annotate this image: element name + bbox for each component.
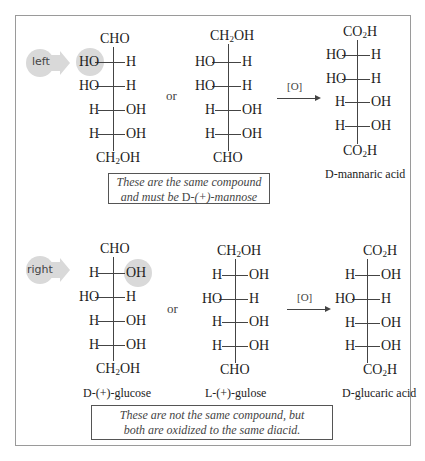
row-3-left: H: [335, 94, 345, 110]
bond: [98, 345, 125, 346]
bond: [212, 62, 241, 63]
row-2-left: HO: [195, 78, 215, 94]
bond: [355, 346, 380, 347]
same-compound-note: These are the same compound and must be …: [108, 173, 270, 204]
row-2-right: H: [126, 78, 136, 94]
row-3-left: H: [89, 102, 99, 118]
row-1-left: HO: [326, 47, 346, 63]
left-pointer-label: left: [32, 55, 50, 68]
note-line-2: both are oxidized to the same diacid.: [96, 423, 328, 438]
row-4-right: OH: [242, 126, 262, 142]
arrow-shaft: [287, 309, 327, 310]
row-2-left: HO: [79, 78, 99, 94]
bond: [345, 102, 370, 103]
bond: [355, 275, 380, 276]
note-line-1: These are not the same compound, but: [96, 408, 328, 423]
row-2-left: HO: [326, 71, 346, 87]
name-rest: -(+)-gulose: [212, 386, 266, 400]
row-1-left: H: [345, 267, 355, 283]
name-rest: -(+)-glucose: [92, 386, 151, 400]
row-1-right: OH: [126, 265, 146, 281]
row-3-right: OH: [126, 313, 146, 329]
bond: [219, 299, 248, 300]
row-1-right: OH: [249, 267, 269, 283]
top-group: CH2OH: [217, 243, 261, 259]
row-4-left: H: [345, 338, 355, 354]
bond: [352, 299, 380, 300]
compound-name: D-(+)-glucose: [83, 386, 151, 400]
bond: [215, 134, 241, 135]
configuration-prefix: D: [83, 386, 92, 400]
row-3-left: H: [345, 315, 355, 331]
row-1-left: H: [89, 265, 99, 281]
product-name: D-glucaric acid: [342, 386, 416, 400]
bond: [222, 346, 248, 347]
row-3-left: H: [212, 314, 222, 330]
row-4-left: H: [89, 337, 99, 353]
row-4-left: H: [205, 126, 215, 142]
bond: [212, 86, 241, 87]
bottom-group: CHO: [213, 150, 243, 166]
note-line-1: These are the same compound: [113, 175, 265, 190]
row-4-right: OH: [381, 338, 401, 354]
row-1-left: HO: [79, 54, 99, 70]
top-group: CHO: [100, 241, 130, 257]
bond: [345, 126, 370, 127]
bond: [215, 110, 241, 111]
row-1-right: H: [371, 47, 381, 63]
bond: [95, 86, 125, 87]
note-text: and must be: [121, 190, 182, 204]
right-pointer-label: right: [27, 263, 53, 276]
product-name: D-mannaric acid: [325, 167, 405, 181]
row-2-right: H: [381, 291, 391, 307]
row-3-right: OH: [126, 102, 146, 118]
configuration-prefix: D: [325, 167, 334, 181]
arrowhead-icon: [325, 306, 331, 312]
row-1-right: OH: [381, 267, 401, 283]
row-1-right: H: [126, 54, 136, 70]
bottom-group: CHO: [220, 362, 250, 378]
bottom-group: CH2OH: [96, 361, 140, 377]
row-1-left: HO: [195, 54, 215, 70]
bond: [98, 273, 125, 274]
bond: [95, 297, 125, 298]
row-1-right: H: [242, 54, 252, 70]
note-text: -(+)-mannose: [190, 190, 257, 204]
row-2-left: HO: [79, 289, 99, 305]
reagent-label: [O]: [287, 80, 302, 92]
top-group: CO2H: [363, 243, 397, 259]
left-pointer-arrowhead-icon: [60, 51, 70, 75]
bottom-group: CO2H: [363, 362, 397, 378]
row-2-left: HO: [335, 291, 355, 307]
row-4-left: H: [89, 126, 99, 142]
name-rest: -glucaric acid: [351, 386, 417, 400]
bond: [222, 322, 248, 323]
top-group: CHO: [100, 31, 130, 47]
bond: [95, 62, 125, 63]
row-3-right: OH: [249, 314, 269, 330]
arrow-shaft: [277, 98, 317, 99]
bond: [98, 110, 125, 111]
row-3-left: H: [205, 102, 215, 118]
bond: [98, 134, 125, 135]
row-3-right: OH: [371, 94, 391, 110]
row-4-right: OH: [126, 126, 146, 142]
arrowhead-icon: [315, 95, 321, 101]
top-group: CO2H: [343, 24, 377, 40]
note-line-2: and must be D-(+)-mannose: [113, 190, 265, 205]
compound-name: L-(+)-gulose: [205, 386, 266, 400]
row-3-left: H: [89, 313, 99, 329]
row-1-left: H: [212, 267, 222, 283]
bottom-group: CO2H: [343, 143, 377, 159]
not-same-compound-note: These are not the same compound, but bot…: [91, 405, 333, 440]
reagent-label: [O]: [297, 291, 312, 303]
row-4-right: OH: [126, 337, 146, 353]
row-2-left: HO: [202, 291, 222, 307]
configuration-prefix: D: [342, 386, 351, 400]
row-4-left: H: [212, 338, 222, 354]
row-4-right: OH: [249, 338, 269, 354]
top-group: CH2OH: [210, 28, 254, 44]
bond: [355, 323, 380, 324]
row-2-right: H: [371, 71, 381, 87]
row-2-right: H: [249, 291, 259, 307]
